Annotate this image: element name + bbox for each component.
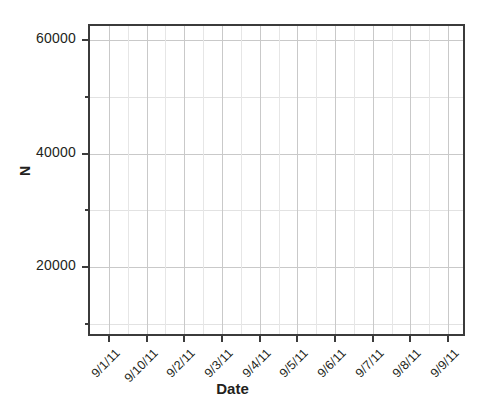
x-minor-gridline: [279, 26, 280, 334]
x-tick-label: 9/9/11: [428, 346, 462, 380]
y-minor-tick: [85, 209, 90, 211]
x-tick-label: 9/7/11: [352, 346, 386, 380]
x-tick-label: 9/2/11: [164, 346, 198, 380]
y-minor-tick: [85, 96, 90, 98]
y-tick-label: 40000: [36, 144, 76, 160]
y-major-tick: [82, 153, 90, 155]
x-tick-label: 9/3/11: [202, 346, 236, 380]
y-axis-tick-labels: 200004000060000: [0, 24, 76, 336]
y-tick-label: 60000: [36, 30, 76, 46]
x-minor-gridline: [429, 26, 430, 334]
x-tick-label: 9/6/11: [315, 346, 349, 380]
x-major-gridline: [222, 26, 223, 334]
x-minor-gridline: [392, 26, 393, 334]
x-major-gridline: [109, 26, 110, 334]
x-tick-label: 9/4/11: [239, 346, 273, 380]
x-tick-label: 9/1/11: [88, 346, 122, 380]
x-major-gridline: [410, 26, 411, 334]
x-minor-gridline: [165, 26, 166, 334]
x-tick-label: 9/8/11: [390, 346, 424, 380]
y-minor-tick: [85, 323, 90, 325]
x-minor-gridline: [241, 26, 242, 334]
x-minor-gridline: [203, 26, 204, 334]
plot-area: [88, 24, 465, 336]
x-major-gridline: [147, 26, 148, 334]
x-axis-title: Date: [44, 380, 421, 397]
x-major-gridline: [448, 26, 449, 334]
x-major-gridline: [260, 26, 261, 334]
x-major-gridline: [184, 26, 185, 334]
y-major-tick: [82, 266, 90, 268]
x-major-gridline: [297, 26, 298, 334]
y-axis-title: N: [17, 166, 33, 176]
x-tick-label: 9/5/11: [277, 346, 311, 380]
x-minor-gridline: [316, 26, 317, 334]
x-major-gridline: [335, 26, 336, 334]
y-major-tick: [82, 39, 90, 41]
x-minor-gridline: [128, 26, 129, 334]
y-tick-label: 20000: [36, 257, 76, 273]
x-minor-gridline: [354, 26, 355, 334]
x-major-gridline: [373, 26, 374, 334]
chart-figure: 200004000060000 9/1/119/10/119/2/119/3/1…: [0, 0, 497, 413]
